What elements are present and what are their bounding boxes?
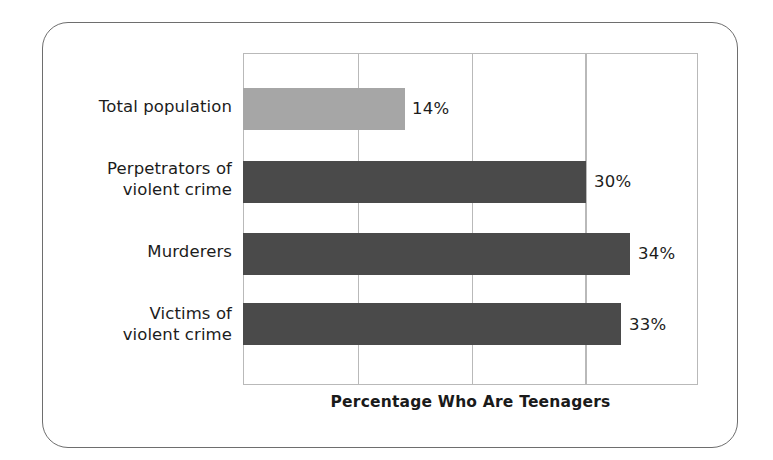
bars-layer (243, 53, 698, 385)
category-label-total-population: Total population (99, 96, 232, 117)
bar-total-population (243, 88, 405, 130)
value-label-victims-of-violent-crime: 33% (629, 316, 666, 334)
bar-victims-of-violent-crime (243, 303, 621, 345)
bar-chart: Total population Perpetrators of violent… (0, 0, 773, 460)
value-label-murderers: 34% (638, 245, 675, 263)
value-label-total-population: 14% (412, 100, 449, 118)
bar-murderers (243, 233, 630, 275)
category-label-victims-of-violent-crime: Victims of violent crime (123, 303, 232, 345)
x-axis-title: Percentage Who Are Teenagers (243, 393, 698, 411)
category-label-perpetrators-of-violent-crime: Perpetrators of violent crime (107, 158, 232, 200)
bar-perpetrators-of-violent-crime (243, 161, 586, 203)
value-label-perpetrators-of-violent-crime: 30% (594, 173, 631, 191)
category-label-murderers: Murderers (147, 241, 232, 262)
